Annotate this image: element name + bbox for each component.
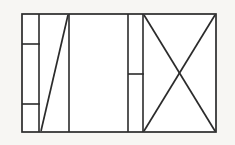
figure-container: Rectangular panel line diagram (0, 0, 235, 145)
outer-rect-fill (22, 14, 216, 132)
line-diagram-svg (0, 0, 235, 145)
